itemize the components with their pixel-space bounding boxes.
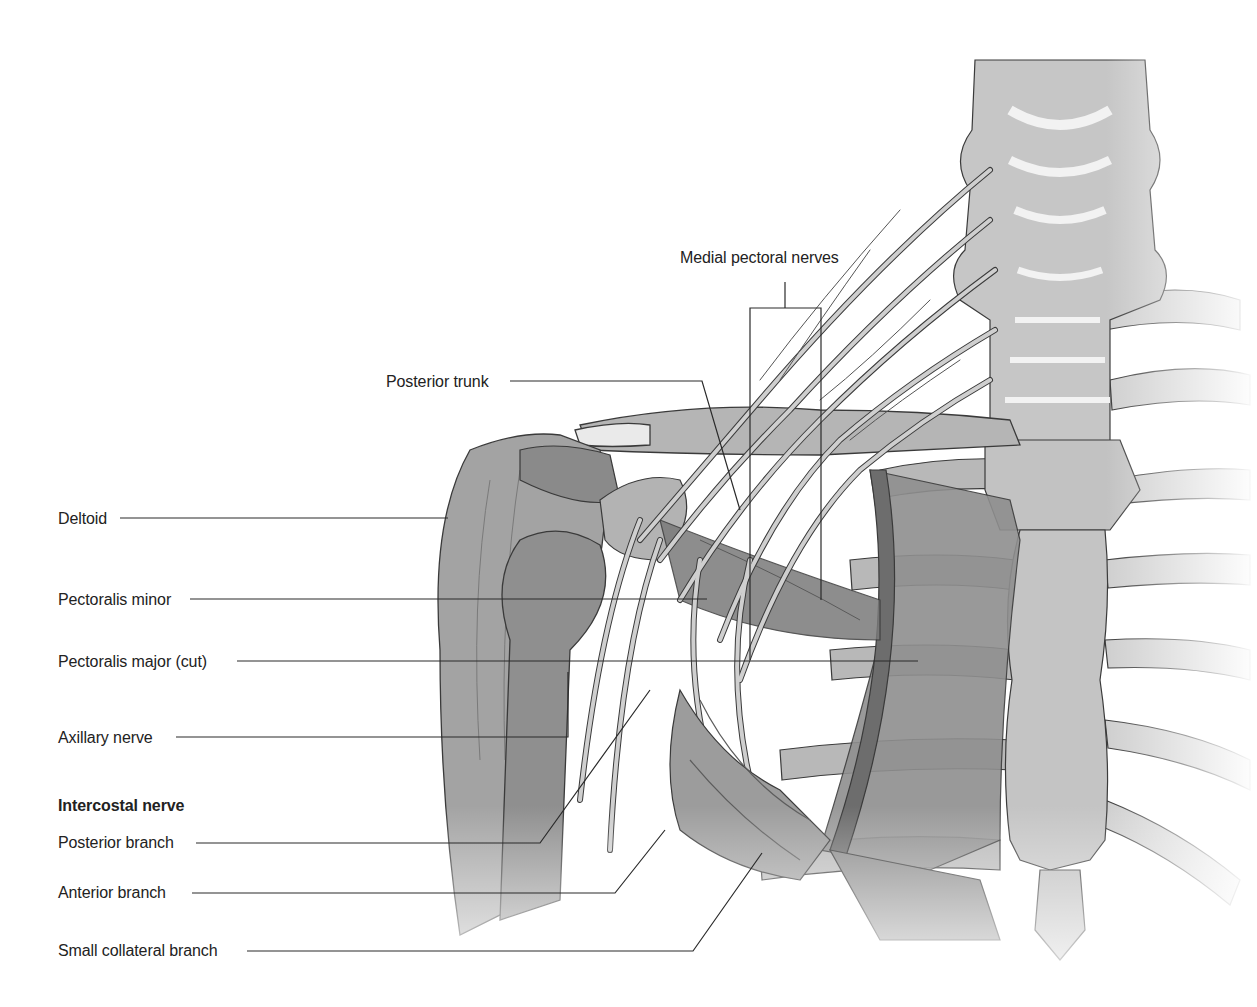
anatomy-figure: Medial pectoral nerves Posterior trunk D… [0, 0, 1257, 1007]
label-posterior-trunk: Posterior trunk [386, 372, 489, 392]
label-intercostal-nerve-heading: Intercostal nerve [58, 796, 184, 816]
label-posterior-branch: Posterior branch [58, 833, 174, 853]
label-pectoralis-minor: Pectoralis minor [58, 590, 171, 610]
label-pectoralis-major-cut: Pectoralis major (cut) [58, 652, 207, 672]
label-anterior-branch: Anterior branch [58, 883, 166, 903]
shoulder-anatomy-illustration [0, 0, 1257, 1007]
label-small-collateral-branch: Small collateral branch [58, 941, 218, 961]
label-axillary-nerve: Axillary nerve [58, 728, 153, 748]
label-medial-pectoral-nerves: Medial pectoral nerves [680, 248, 839, 268]
label-deltoid: Deltoid [58, 509, 107, 529]
